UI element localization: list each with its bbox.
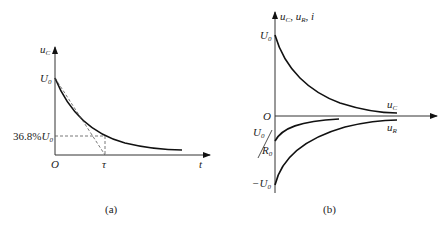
figure-a-caption: (a) <box>105 203 118 216</box>
figure-b-neg-u0-label: −U0 <box>252 177 271 191</box>
figure-b-caption: (b) <box>323 203 336 216</box>
figure-a-y-axis-label: uC <box>40 43 51 57</box>
figure-b-ur-curve <box>275 120 397 185</box>
figure-b-u0-label: U0 <box>260 29 272 43</box>
figure-a-level-label: 36.8%U0 <box>13 130 53 144</box>
figure-b-current-label: U0 R0 <box>253 126 273 158</box>
svg-text:U0: U0 <box>253 126 265 140</box>
figure-b-ur-label: uR <box>387 121 398 135</box>
figure-b-uc-curve <box>275 35 397 113</box>
figure-a-origin-label: O <box>51 158 59 170</box>
figure-b-origin-label: O <box>263 110 271 122</box>
svg-text:R0: R0 <box>261 144 273 158</box>
figure-a: uC U0 36.8%U0 O τ t (a) <box>13 43 210 216</box>
figure-b: uC, uR, i U0 O U0 R0 −U0 uC uR (b) <box>252 10 437 216</box>
figure-b-current-curve <box>275 119 339 141</box>
figure-a-tangent-line <box>55 78 105 155</box>
figure-a-u0-label: U0 <box>40 72 52 86</box>
figure-b-uc-label: uC <box>387 98 398 112</box>
figure-a-tau-label: τ <box>102 158 107 170</box>
figure-a-uc-decay-curve <box>55 78 182 150</box>
figure-a-x-axis-label: t <box>199 158 203 170</box>
figure-b-y-axis-label: uC, uR, i <box>280 10 314 24</box>
rc-discharge-figure: uC U0 36.8%U0 O τ t (a) uC, uR, i U0 O U… <box>0 0 446 228</box>
